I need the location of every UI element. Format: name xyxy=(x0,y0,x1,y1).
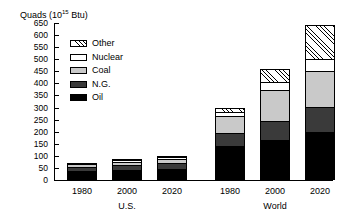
bar-segment-coal xyxy=(306,72,334,108)
group-label-world: World xyxy=(245,201,305,211)
legend-label-nuclear: Nuclear xyxy=(92,53,123,62)
y-axis-tick xyxy=(55,180,59,181)
bar-world-1980 xyxy=(215,108,245,180)
bar-segment-ng xyxy=(216,134,244,147)
y-axis-tick-label: 450 xyxy=(22,67,48,76)
bar-segment-nuclear xyxy=(261,83,289,91)
y-axis-tick-label: 50 xyxy=(22,164,48,173)
bar-world-2000 xyxy=(260,69,290,180)
legend-swatch-oil-icon xyxy=(70,94,87,101)
y-axis-tick-label: 600 xyxy=(22,31,48,40)
legend-item-ng: N.G. xyxy=(70,79,123,90)
bar-segment-other xyxy=(261,70,289,83)
x-axis-label-world-1980: 1980 xyxy=(207,186,253,196)
legend-item-other: Other xyxy=(70,38,123,49)
legend-swatch-coal-icon xyxy=(70,67,87,74)
legend-item-coal: Coal xyxy=(70,65,123,76)
legend-label-oil: Oil xyxy=(92,93,103,102)
y-axis-tick-label: 150 xyxy=(22,140,48,149)
y-axis-tick-label: 200 xyxy=(22,128,48,137)
y-axis-tick-label: 100 xyxy=(22,152,48,161)
x-axis-line xyxy=(54,180,333,181)
y-axis-tick-label: 400 xyxy=(22,79,48,88)
y-axis-title-suffix: Btu) xyxy=(69,10,88,20)
y-axis-tick-label: 350 xyxy=(22,91,48,100)
x-axis-label-world-2020: 2020 xyxy=(297,186,339,196)
bar-world-2020 xyxy=(305,25,335,180)
bar-segment-other xyxy=(306,26,334,59)
legend-label-ng: N.G. xyxy=(92,80,111,89)
bar-segment-oil xyxy=(216,147,244,179)
bar-segment-oil xyxy=(306,133,334,179)
legend-item-oil: Oil xyxy=(70,92,123,103)
bar-segment-oil xyxy=(113,171,141,179)
y-axis-tick-label: 550 xyxy=(22,43,48,52)
y-axis-tick-label: 650 xyxy=(22,19,48,28)
bar-segment-nuclear xyxy=(306,60,334,72)
bar-segment-oil xyxy=(158,170,186,179)
legend-label-other: Other xyxy=(92,39,115,48)
bar-segment-oil xyxy=(68,172,96,179)
legend-label-coal: Coal xyxy=(92,66,111,75)
bar-us-2000 xyxy=(112,159,142,180)
bar-us-1980 xyxy=(67,163,97,180)
legend-swatch-nuclear-icon xyxy=(70,54,87,61)
bar-segment-coal xyxy=(261,91,289,122)
legend-swatch-ng-icon xyxy=(70,81,87,88)
group-label-us: U.S. xyxy=(97,201,157,211)
y-axis-tick-label: 250 xyxy=(22,116,48,125)
y-axis-tick-label: 0 xyxy=(22,176,48,185)
bar-segment-oil xyxy=(261,141,289,179)
legend-item-nuclear: Nuclear xyxy=(70,52,123,63)
bar-us-2020 xyxy=(157,156,187,180)
x-axis-label-us-2020: 2020 xyxy=(149,186,195,196)
legend: Other Nuclear Coal N.G. Oil xyxy=(70,38,123,106)
x-axis-label-us-2000: 2000 xyxy=(104,186,150,196)
y-axis-tick-label: 300 xyxy=(22,104,48,113)
bar-segment-ng xyxy=(306,108,334,133)
x-axis-label-world-2000: 2000 xyxy=(252,186,298,196)
y-axis-tick-label: 500 xyxy=(22,55,48,64)
bar-segment-coal xyxy=(216,117,244,135)
x-axis-label-us-1980: 1980 xyxy=(59,186,105,196)
bar-segment-ng xyxy=(261,122,289,141)
y-axis-title-exponent: 15 xyxy=(62,9,69,15)
legend-swatch-other-icon xyxy=(70,40,87,47)
